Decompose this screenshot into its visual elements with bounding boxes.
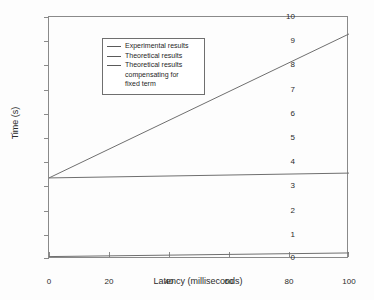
- legend-item-theoretical: Theoretical results: [106, 52, 201, 61]
- chart-figure: 10 9 8 7 6 5 4 3 2 1 0 0 20 40 60 80 100: [0, 0, 374, 300]
- legend-label-theoretical: Theoretical results: [125, 52, 182, 61]
- legend-label-experimental: Experimental results: [125, 42, 188, 51]
- legend-item-theoretical-compensated-cont1: compensating for: [106, 71, 201, 80]
- legend-line-icon-theoretical: [107, 56, 121, 57]
- legend-item-theoretical-compensated: Theoretical results: [106, 61, 201, 70]
- y-axis-title: Time (s): [10, 93, 20, 153]
- series-line-theoretical-compensated: [49, 253, 349, 257]
- legend-item-theoretical-compensated-cont2: fixed term: [106, 80, 201, 89]
- legend: Experimental results Theoretical results…: [102, 38, 205, 95]
- series-line-theoretical: [49, 173, 349, 178]
- legend-item-experimental: Experimental results: [106, 42, 201, 51]
- x-axis-title: Latency (milliseconds): [48, 276, 348, 286]
- legend-label-theoretical-compensated-line2: compensating for: [125, 71, 179, 80]
- plot-area: 10 9 8 7 6 5 4 3 2 1 0 0 20 40 60 80 100: [48, 16, 348, 258]
- legend-label-theoretical-compensated-line3: fixed term: [125, 80, 156, 89]
- legend-line-icon-experimental: [107, 46, 121, 47]
- legend-line-icon-theoretical-compensated: [107, 65, 121, 66]
- legend-label-theoretical-compensated-line1: Theoretical results: [125, 61, 182, 70]
